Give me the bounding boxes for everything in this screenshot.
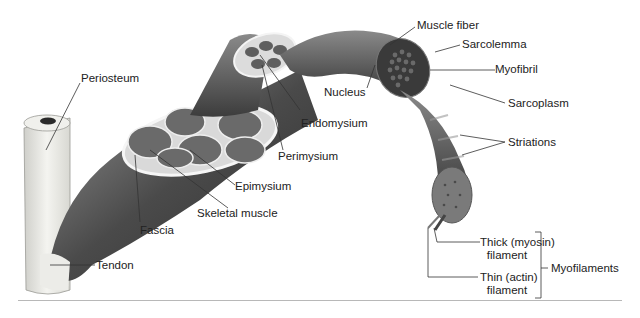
label-thick-filament-line1: Thick (myosin): [480, 236, 534, 249]
label-periosteum: Periosteum: [81, 72, 139, 85]
label-thick-filament-line2: filament: [480, 249, 534, 262]
label-nucleus: Nucleus: [324, 86, 366, 99]
label-thin-filament-line1: Thin (actin): [480, 271, 534, 284]
label-thin-filament: Thin (actin) filament: [480, 271, 534, 297]
skeletal-muscle-belly: [40, 25, 318, 290]
label-skeletal-muscle: Skeletal muscle: [197, 207, 278, 220]
label-myofilaments: Myofilaments: [551, 262, 619, 275]
label-epimysium: Epimysium: [235, 180, 291, 193]
label-fascia: Fascia: [140, 224, 174, 237]
label-muscle-fiber: Muscle fiber: [417, 19, 479, 32]
bottom-divider: [18, 300, 622, 301]
label-endomysium: Endomysium: [301, 117, 367, 130]
label-striations: Striations: [508, 136, 556, 149]
label-perimysium: Perimysium: [278, 150, 338, 163]
label-thin-filament-line2: filament: [480, 284, 534, 297]
label-thick-filament: Thick (myosin) filament: [480, 236, 534, 262]
label-myofibril: Myofibril: [495, 63, 538, 76]
label-tendon: Tendon: [96, 259, 134, 272]
label-sarcoplasm: Sarcoplasm: [508, 97, 569, 110]
label-sarcolemma: Sarcolemma: [462, 38, 527, 51]
